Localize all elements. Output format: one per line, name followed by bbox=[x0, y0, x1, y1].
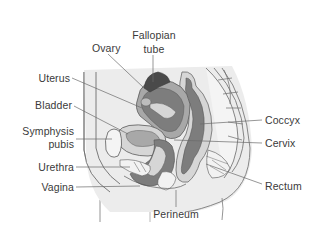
label-perineum: Perineum bbox=[146, 208, 206, 220]
label-ovary: Ovary bbox=[92, 42, 121, 54]
label-coccyx: Coccyx bbox=[265, 114, 300, 126]
label-rectum: Rectum bbox=[265, 180, 302, 192]
label-uterus: Uterus bbox=[38, 72, 70, 84]
label-bladder: Bladder bbox=[35, 99, 72, 111]
label-fallopian-tube: Fallopian tube bbox=[128, 29, 180, 55]
label-urethra: Urethra bbox=[38, 161, 74, 173]
label-symphysis-pubis-line1: Symphysis bbox=[22, 125, 74, 137]
symphysis-pubis bbox=[105, 129, 121, 157]
label-symphysis-pubis: Symphysis pubis bbox=[22, 125, 74, 150]
label-symphysis-pubis-line2: pubis bbox=[22, 138, 74, 150]
label-fallopian-tube-line1: Fallopian bbox=[128, 29, 180, 41]
label-vagina: Vagina bbox=[41, 181, 74, 193]
label-cervix: Cervix bbox=[265, 137, 295, 149]
label-fallopian-tube-line2: tube bbox=[128, 43, 180, 55]
